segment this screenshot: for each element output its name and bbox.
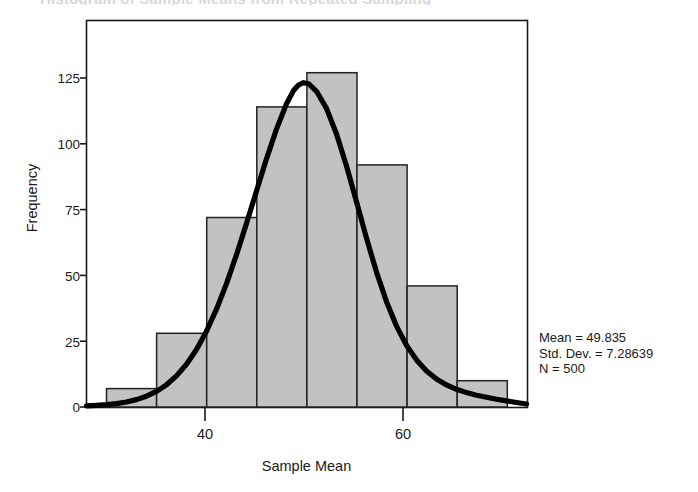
y-axis-ticks [80, 78, 86, 407]
stat-mean: Mean = 49.835 [539, 330, 653, 346]
stat-n: N = 500 [539, 361, 653, 377]
x-axis-ticks [205, 407, 403, 421]
plot-area [0, 0, 698, 492]
histogram-figure: Histogram of Sample Means from Repeated … [0, 0, 698, 492]
histogram-bar [257, 107, 307, 407]
stat-std-dev: Std. Dev. = 7.28639 [539, 346, 653, 362]
histogram-bars [107, 73, 508, 407]
statistics-annotation: Mean = 49.835 Std. Dev. = 7.28639 N = 50… [539, 330, 653, 377]
